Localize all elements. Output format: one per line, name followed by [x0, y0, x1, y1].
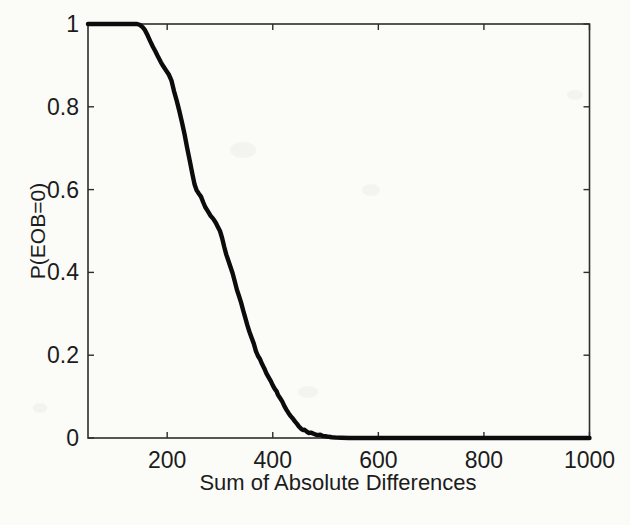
plot-canvas: 2004006008001000 00.20.40.60.81 Sum of A… — [0, 0, 630, 525]
y-tick-label: 1 — [66, 11, 79, 37]
scan-smudges — [33, 90, 583, 413]
y-tick-label: 0.2 — [47, 342, 79, 368]
y-tick-label: 0 — [66, 425, 79, 451]
scan-smudge — [33, 403, 47, 413]
y-tick-labels: 00.20.40.60.81 — [47, 11, 79, 451]
scan-smudge — [230, 142, 256, 158]
x-axis-title: Sum of Absolute Differences — [199, 470, 476, 495]
y-tick-label: 0.4 — [47, 259, 79, 285]
y-tick-label: 0.8 — [47, 94, 79, 120]
scan-smudge — [362, 184, 380, 196]
scan-smudge — [298, 386, 318, 398]
x-tick-label: 200 — [148, 447, 186, 473]
probability-curve — [88, 24, 590, 438]
scanned-plot-figure: 2004006008001000 00.20.40.60.81 Sum of A… — [0, 0, 630, 525]
x-tick-label: 1000 — [564, 447, 615, 473]
y-axis-title: P(EOB=0) — [26, 183, 49, 279]
y-tick-label: 0.6 — [47, 177, 79, 203]
axis-ticks — [88, 24, 590, 438]
scan-smudge — [567, 90, 583, 100]
plot-box — [88, 24, 590, 438]
